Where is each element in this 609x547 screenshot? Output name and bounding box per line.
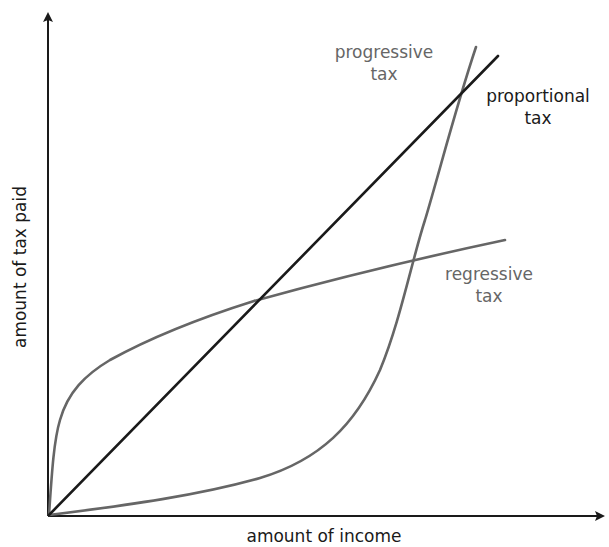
regressive-tax-label-line1: regressive xyxy=(445,264,533,284)
regressive-tax-label-line2: tax xyxy=(475,286,502,306)
progressive-tax-label-line1: progressive xyxy=(335,42,434,62)
proportional-tax-label-line1: proportional xyxy=(486,86,590,106)
proportional-tax-label-line2: tax xyxy=(524,108,551,128)
progressive-tax-curve xyxy=(49,47,476,515)
tax-curves-chart: progressive tax proportional tax regress… xyxy=(0,0,609,547)
x-axis-title: amount of income xyxy=(246,526,401,546)
y-axis-title: amount of tax paid xyxy=(10,186,30,348)
progressive-tax-label-line2: tax xyxy=(370,64,397,84)
proportional-tax-line xyxy=(49,56,498,515)
